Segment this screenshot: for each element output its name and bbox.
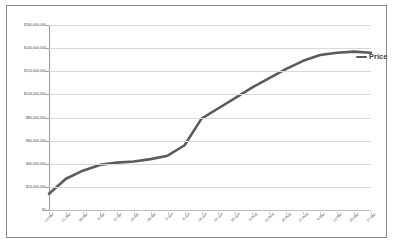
legend-label-price: Price [369, 53, 387, 61]
plot-area [49, 25, 371, 210]
gridline [49, 141, 371, 142]
chart-legend: Price [356, 53, 387, 61]
gridline [49, 187, 371, 188]
x-axis-tick-label: 19-Apr [129, 212, 140, 223]
legend-swatch-price [356, 56, 367, 59]
x-axis-tick-label: 3-Jun [164, 212, 173, 221]
chart-plot-wrapper: $160,000,000$140,000,000$120,000,000$100… [7, 6, 386, 237]
x-axis-tick-label: 26-Apr [146, 212, 157, 223]
x-axis-tick-label: 14-Mar [44, 212, 55, 223]
x-axis-tick-label: 6-Aug [249, 212, 259, 222]
y-axis-tick-label: $140,000,000 [24, 46, 46, 50]
x-axis-tick-label: 23-Jun [214, 212, 225, 223]
chart-frame: $160,000,000$140,000,000$120,000,000$100… [6, 5, 387, 238]
y-axis-tick-label: $160,000,000 [24, 23, 46, 27]
x-axis-labels: 14-Mar21-Mar28-Mar5-Apr12-Apr19-Apr26-Ap… [49, 212, 371, 242]
gridline [49, 25, 371, 26]
y-axis-tick-label: $80,000,000 [26, 116, 46, 120]
gridline [49, 164, 371, 165]
x-axis-tick-label: 20-Aug [281, 212, 292, 223]
x-axis-tick-label: 12-Apr [112, 212, 123, 223]
x-axis-tick-label: 20-Mar [349, 212, 360, 223]
gridline [49, 94, 371, 95]
x-axis-tick-label: 16-Jun [197, 212, 208, 223]
x-axis-tick-label: 13-Mar [332, 212, 343, 223]
x-axis-tick-label: 21-Mar [61, 212, 72, 223]
gridline [49, 48, 371, 49]
y-axis-tick-label: $20,000,000 [26, 185, 46, 189]
x-axis-tick-label: 5-Apr [97, 212, 106, 221]
y-axis-tick-label: $40,000,000 [26, 162, 46, 166]
x-axis-tick-label: 13-Aug [264, 212, 275, 223]
y-axis-tick-label: $60,000,000 [26, 139, 46, 143]
y-axis-labels: $160,000,000$140,000,000$120,000,000$100… [7, 25, 46, 210]
gridline [49, 118, 371, 119]
x-axis-tick-label: 6-Mar [317, 212, 327, 222]
x-axis-tick-label: 27-Mar [366, 212, 377, 223]
x-axis-tick-label: 27-Aug [298, 212, 309, 223]
y-axis-tick-label: $100,000,000 [24, 92, 46, 96]
x-axis-tick-label: 30-Jun [231, 212, 242, 223]
x-axis-tick-label: 9-Jun [181, 212, 190, 221]
x-axis-tick-label: 28-Mar [78, 212, 89, 223]
gridline [49, 71, 371, 72]
y-axis-tick-label: $120,000,000 [24, 69, 46, 73]
